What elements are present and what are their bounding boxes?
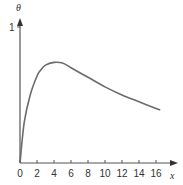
chart: 1 θ x 0246810121416 bbox=[0, 0, 183, 185]
x-tick-label: 2 bbox=[34, 168, 40, 179]
x-tick-label: 10 bbox=[99, 168, 111, 179]
x-tick-label: 8 bbox=[85, 168, 91, 179]
x-axis-arrow-icon bbox=[170, 160, 178, 166]
x-tick-label: 4 bbox=[51, 168, 57, 179]
y-axis-label: θ bbox=[16, 2, 21, 13]
x-tick-label: 12 bbox=[116, 168, 128, 179]
theta-curve bbox=[20, 62, 160, 163]
x-axis-label: x bbox=[169, 170, 175, 181]
y-axis-arrow-icon bbox=[17, 18, 23, 26]
x-tick-label: 0 bbox=[17, 168, 23, 179]
x-tick-label: 6 bbox=[68, 168, 74, 179]
y-tick-label-1: 1 bbox=[9, 22, 15, 33]
x-tick-label: 14 bbox=[133, 168, 145, 179]
x-tick-label: 16 bbox=[150, 168, 162, 179]
